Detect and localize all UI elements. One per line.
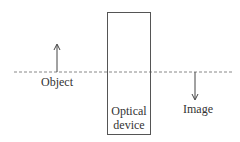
device-label-line1: Optical (111, 104, 147, 118)
object-arrow-icon (54, 44, 60, 72)
image-label: Image (183, 102, 213, 116)
object-label: Object (41, 75, 74, 89)
optics-diagram: Object Image Optical device (0, 0, 240, 142)
image-arrow-icon (192, 72, 198, 100)
device-label-line2: device (113, 118, 144, 132)
